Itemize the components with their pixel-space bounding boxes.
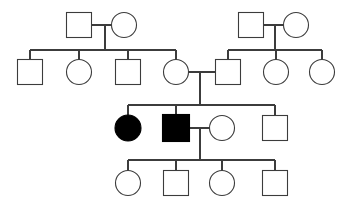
pedigree-symbol-female-unaffected [210, 116, 235, 141]
pedigree-symbol-female-unaffected [67, 60, 92, 85]
pedigree-symbol-female-unaffected [116, 171, 141, 196]
pedigree-symbol-female-unaffected [310, 60, 335, 85]
pedigree-symbol-female-unaffected [210, 171, 235, 196]
pedigree-symbol-male-unaffected [263, 171, 288, 196]
pedigree-symbol-female-unaffected [112, 13, 137, 38]
pedigree-symbol-female-unaffected [284, 13, 309, 38]
pedigree-symbol-male-unaffected [18, 60, 43, 85]
pedigree-symbol-male-unaffected [67, 13, 92, 38]
pedigree-symbol-male-unaffected [239, 13, 264, 38]
pedigree-chart [0, 0, 350, 203]
pedigree-symbol-male-unaffected [216, 60, 241, 85]
pedigree-symbol-female-unaffected [164, 60, 189, 85]
pedigree-canvas [0, 0, 350, 203]
pedigree-symbol-male-affected [163, 115, 190, 142]
pedigree-symbol-male-unaffected [116, 60, 141, 85]
pedigree-symbol-male-unaffected [164, 171, 189, 196]
pedigree-symbol-male-unaffected [263, 116, 288, 141]
pedigree-symbol-female-affected [115, 115, 141, 141]
pedigree-symbol-female-unaffected [264, 60, 289, 85]
